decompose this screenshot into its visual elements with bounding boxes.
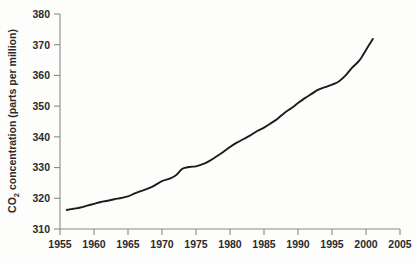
- y-tick-label-310: 310: [32, 223, 50, 235]
- y-axis-ticks: [54, 14, 60, 229]
- x-tick-label-1980: 1980: [218, 238, 242, 250]
- x-tick-label-1990: 1990: [286, 238, 310, 250]
- y-tick-label-340: 340: [32, 131, 50, 143]
- y-tick-label-380: 380: [32, 8, 50, 20]
- chart-plot-area: 310320330340350360370380 195519601965197…: [0, 0, 415, 263]
- x-tick-label-1955: 1955: [48, 238, 72, 250]
- x-tick-label-1965: 1965: [116, 238, 140, 250]
- y-axis-title: CO2 concentration (parts per million): [6, 29, 21, 213]
- y-tick-label-350: 350: [32, 100, 50, 112]
- co2-concentration-chart: 310320330340350360370380 195519601965197…: [0, 0, 415, 263]
- x-axis-ticks: [60, 229, 400, 235]
- y-tick-label-360: 360: [32, 69, 50, 81]
- x-tick-label-1975: 1975: [184, 238, 208, 250]
- x-tick-label-1995: 1995: [320, 238, 344, 250]
- x-tick-label-1985: 1985: [252, 238, 276, 250]
- x-tick-label-1960: 1960: [82, 238, 106, 250]
- y-tick-label-370: 370: [32, 39, 50, 51]
- x-tick-label-2005: 2005: [388, 238, 412, 250]
- x-tick-label-1970: 1970: [150, 238, 174, 250]
- y-tick-label-330: 330: [32, 161, 50, 173]
- x-axis-tick-labels: 1955196019651970197519801985199019952000…: [48, 238, 412, 250]
- y-tick-label-320: 320: [32, 192, 50, 204]
- co2-data-line: [67, 39, 373, 210]
- y-axis-tick-labels: 310320330340350360370380: [32, 8, 50, 235]
- x-tick-label-2000: 2000: [354, 238, 378, 250]
